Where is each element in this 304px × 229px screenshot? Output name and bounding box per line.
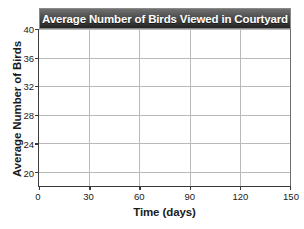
y-axis-tick [35, 172, 39, 173]
gridline-vertical [89, 29, 90, 186]
y-axis-tick [35, 58, 39, 59]
y-tick-label: 24 [12, 138, 34, 149]
x-axis-tick [139, 186, 140, 190]
gridline-horizontal [39, 143, 290, 144]
chart-title: Average Number of Birds Viewed in Courty… [42, 13, 288, 25]
x-axis-tick [240, 186, 241, 190]
x-tick-label: 30 [72, 191, 106, 202]
y-axis-tick-labels: 40 36 32 28 24 20 [10, 29, 34, 187]
y-tick-label: 20 [12, 167, 34, 178]
y-tick-label: 36 [12, 52, 34, 63]
x-axis-tick [190, 186, 191, 190]
x-tick-label: 120 [223, 191, 257, 202]
x-axis-tick [290, 186, 291, 190]
x-tick-label: 150 [274, 191, 304, 202]
gridline-horizontal [39, 172, 290, 173]
gridline-horizontal [39, 115, 290, 116]
y-tick-label: 40 [12, 24, 34, 35]
x-tick-label: 60 [122, 191, 156, 202]
x-axis-tick-labels: 0 30 60 90 120 150 [38, 191, 291, 205]
gridline-vertical [139, 29, 140, 186]
gridline-vertical [240, 29, 241, 186]
x-axis-title: Time (days) [38, 206, 291, 218]
plot-area [38, 29, 291, 187]
y-tick-label: 28 [12, 110, 34, 121]
y-axis-tick [35, 143, 39, 144]
gridline-horizontal [39, 58, 290, 59]
plot-frame: Average Number of Birds Viewed in Courty… [38, 8, 291, 187]
chart-figure: Average Number of Birds 40 36 32 28 24 2… [0, 0, 304, 229]
y-axis-tick [35, 29, 39, 30]
y-axis-tick [35, 115, 39, 116]
gridline-horizontal [39, 86, 290, 87]
chart-title-bar: Average Number of Birds Viewed in Courty… [39, 8, 291, 29]
gridline-vertical [190, 29, 191, 186]
y-axis-tick [35, 86, 39, 87]
gridline-horizontal [39, 29, 290, 30]
x-axis-tick [89, 186, 90, 190]
x-tick-label: 90 [173, 191, 207, 202]
x-tick-label: 0 [21, 191, 55, 202]
y-tick-label: 32 [12, 81, 34, 92]
x-axis-tick [39, 186, 40, 190]
